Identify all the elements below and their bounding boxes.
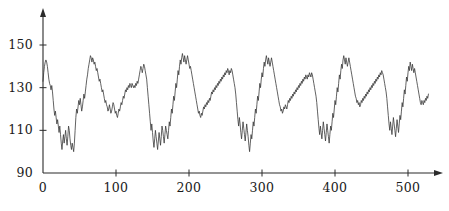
tick-marks-group [40, 45, 409, 177]
y-tick-label: 90 [0, 165, 33, 180]
x-tick-label: 100 [91, 180, 141, 195]
x-tick-label: 400 [310, 180, 360, 195]
data-series-group [43, 54, 428, 152]
x-tick-label: 0 [18, 180, 68, 195]
y-tick-label: 110 [0, 122, 33, 137]
x-axis-arrow-icon [434, 170, 443, 176]
y-axis-arrow-icon [40, 8, 46, 17]
y-tick-label: 130 [0, 80, 33, 95]
axes-group [40, 8, 443, 176]
x-tick-label: 300 [237, 180, 287, 195]
y-tick-label: 150 [0, 37, 33, 52]
x-tick-label: 200 [164, 180, 214, 195]
series-line-path [43, 54, 428, 152]
chart-figure: 90110130150 0100200300400500 [0, 0, 449, 211]
x-tick-label: 500 [383, 180, 433, 195]
